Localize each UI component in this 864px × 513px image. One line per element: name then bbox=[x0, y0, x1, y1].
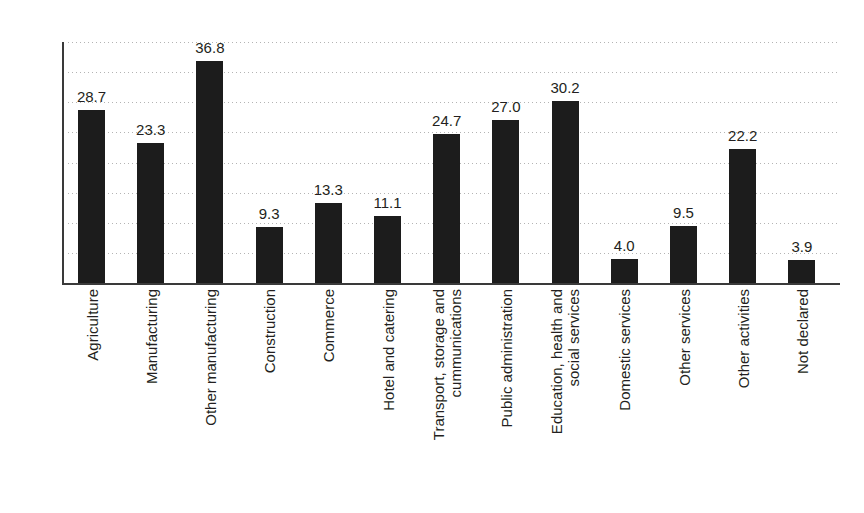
bar bbox=[78, 110, 105, 283]
gridline bbox=[68, 72, 838, 73]
x-axis-category-label: Agriculture bbox=[84, 289, 101, 499]
y-axis-line bbox=[62, 42, 64, 284]
gridline bbox=[68, 102, 838, 103]
x-axis-category-label: Other manufacturing bbox=[202, 289, 219, 499]
bar-value-label: 27.0 bbox=[471, 99, 541, 114]
x-axis-labels: AgricultureManufacturingOther manufactur… bbox=[62, 289, 840, 509]
bar-value-label: 4.0 bbox=[589, 238, 659, 253]
bar bbox=[315, 203, 342, 283]
bar bbox=[552, 101, 579, 283]
x-axis-category-label: Commerce bbox=[320, 289, 337, 499]
x-axis-category-label: Not declared bbox=[794, 289, 811, 499]
bar bbox=[433, 134, 460, 283]
bar-value-label: 9.5 bbox=[649, 205, 719, 220]
bar bbox=[492, 120, 519, 283]
bar bbox=[137, 143, 164, 283]
x-axis-category-label: Other activities bbox=[735, 289, 752, 499]
x-axis-category-label: Construction bbox=[261, 289, 278, 499]
bar-value-label: 24.7 bbox=[412, 113, 482, 128]
bar-value-label: 11.1 bbox=[353, 195, 423, 210]
bar-value-label: 3.9 bbox=[767, 239, 837, 254]
bar-value-label: 22.2 bbox=[708, 128, 778, 143]
x-axis-category-label: Hotel and catering bbox=[380, 289, 397, 499]
bar bbox=[611, 259, 638, 283]
bar bbox=[670, 226, 697, 283]
bar bbox=[788, 260, 815, 283]
x-axis-category-label: Manufacturing bbox=[143, 289, 160, 499]
bar bbox=[374, 216, 401, 283]
bar bbox=[729, 149, 756, 283]
x-axis-category-label: Public administration bbox=[498, 289, 515, 499]
x-axis-category-label: Education, health and social services bbox=[548, 289, 582, 499]
bar bbox=[196, 61, 223, 283]
bar-value-label: 9.3 bbox=[234, 206, 304, 221]
x-axis-category-label: Transport, storage and cummunications bbox=[430, 289, 464, 499]
plot-area: 403530252015105028.723.336.89.313.311.12… bbox=[62, 42, 840, 283]
bar-value-label: 23.3 bbox=[116, 122, 186, 137]
x-axis-category-label: Domestic services bbox=[616, 289, 633, 499]
bar-value-label: 28.7 bbox=[57, 89, 127, 104]
bar-value-label: 36.8 bbox=[175, 40, 245, 55]
bar-value-label: 30.2 bbox=[530, 80, 600, 95]
x-axis-category-label: Other services bbox=[676, 289, 693, 499]
bar bbox=[256, 227, 283, 283]
bar-chart: 403530252015105028.723.336.89.313.311.12… bbox=[0, 0, 864, 513]
x-axis-line bbox=[62, 283, 840, 285]
